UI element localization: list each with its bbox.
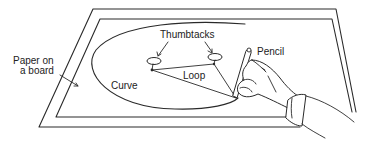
board [39,9,356,127]
label-thumbtacks: Thumbtacks [160,29,214,40]
hand-icon [237,60,354,138]
paper-arrow [60,75,78,86]
label-paper-line2: a board [20,65,54,76]
label-pencil: Pencil [257,46,284,57]
label-loop: Loop [183,70,206,81]
thumbtack-right-icon [208,54,222,66]
ellipse-drawing-diagram: Paper on a board Thumbtacks Pencil Loop … [0,0,366,147]
thumbtacks-arrows [157,42,212,56]
label-curve: Curve [111,80,138,91]
